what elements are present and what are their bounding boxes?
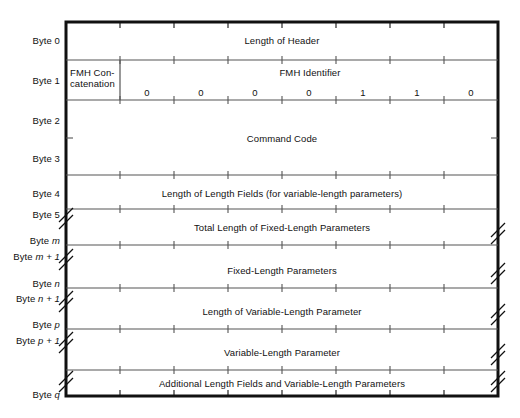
- field-label-fmh-concatenation: FMH Con-catenation: [70, 67, 115, 89]
- byte-label-text: Byte: [13, 251, 35, 262]
- field-label-variable-length-parameter: Variable-Length Parameter: [224, 347, 340, 358]
- fmh-identifier-bit-6: 1: [414, 87, 419, 98]
- byte-label-4: Byte 4: [32, 188, 60, 199]
- byte-label-12: Byte q: [32, 389, 60, 400]
- fmh-identifier-bit-1: 0: [144, 87, 149, 98]
- field-label-additional-length-fields: Additional Length Fields and Variable-Le…: [159, 378, 405, 389]
- byte-label-symbol: n: [55, 278, 60, 289]
- byte-label-text: Byte 5: [32, 209, 60, 220]
- byte-label-11: Byte p + 1: [16, 335, 60, 346]
- byte-label-symbol: n + 1: [38, 293, 60, 304]
- field-label-length-of-length-fields: Length of Length Fields (for variable-le…: [162, 188, 403, 199]
- byte-label-10: Byte p: [32, 319, 60, 330]
- byte-label-8: Byte n: [32, 278, 60, 289]
- byte-label-text: Byte 0: [32, 35, 60, 46]
- fmh-identifier-bit-7: 0: [468, 87, 473, 98]
- field-label-command-code: Command Code: [247, 133, 317, 144]
- byte-label-text: Byte: [16, 293, 38, 304]
- byte-label-0: Byte 0: [32, 35, 60, 46]
- byte-label-9: Byte n + 1: [16, 293, 60, 304]
- field-label-length-of-header: Length of Header: [244, 35, 319, 46]
- fmh-identifier-bit-4: 0: [306, 87, 311, 98]
- fmh-identifier-bit-5: 1: [360, 87, 365, 98]
- field-label-total-length-fixed-params: Total Length of Fixed-Length Parameters: [194, 222, 370, 233]
- byte-label-symbol: p + 1: [38, 335, 60, 346]
- byte-label-3: Byte 3: [32, 153, 60, 164]
- byte-label-text: Byte 3: [32, 153, 60, 164]
- byte-label-text: Byte: [32, 389, 54, 400]
- byte-label-text: Byte: [30, 235, 52, 246]
- byte-label-text: Byte: [32, 319, 54, 330]
- byte-label-symbol: m: [52, 235, 60, 246]
- byte-label-symbol: q: [55, 389, 60, 400]
- byte-label-text: Byte 1: [32, 75, 60, 86]
- field-label-line: FMH Con-: [70, 67, 115, 78]
- byte-label-text: Byte: [32, 278, 54, 289]
- fmh-identifier-bit-3: 0: [252, 87, 257, 98]
- byte-label-6: Byte m: [30, 235, 60, 246]
- byte-label-2: Byte 2: [32, 115, 60, 126]
- byte-label-text: Byte: [16, 335, 38, 346]
- field-label-length-of-variable-param: Length of Variable-Length Parameter: [202, 306, 361, 317]
- fmh-identifier-bit-2: 0: [198, 87, 203, 98]
- byte-label-7: Byte m + 1: [13, 251, 60, 262]
- field-label-fmh-identifier: FMH Identifier: [279, 67, 340, 78]
- byte-label-1: Byte 1: [32, 75, 60, 86]
- byte-label-5: Byte 5: [32, 209, 60, 220]
- field-label-fixed-length-parameters: Fixed-Length Parameters: [227, 265, 337, 276]
- byte-label-symbol: p: [55, 319, 60, 330]
- byte-label-text: Byte 4: [32, 188, 60, 199]
- field-label-line: catenation: [70, 78, 115, 89]
- byte-label-text: Byte 2: [32, 115, 60, 126]
- byte-label-symbol: m + 1: [35, 251, 60, 262]
